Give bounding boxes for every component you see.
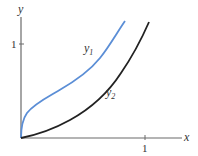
y2-label: y2 — [105, 85, 115, 101]
y-tick-label: 1 — [11, 38, 17, 50]
chart: y x 1 1 y1 y2 — [0, 0, 198, 156]
x-axis-label: x — [183, 130, 190, 144]
y-axis-label: y — [17, 2, 24, 16]
curve-y2 — [21, 22, 149, 138]
x-tick-label: 1 — [142, 142, 148, 154]
y1-label: y1 — [83, 41, 93, 57]
curve-y1 — [21, 21, 125, 138]
